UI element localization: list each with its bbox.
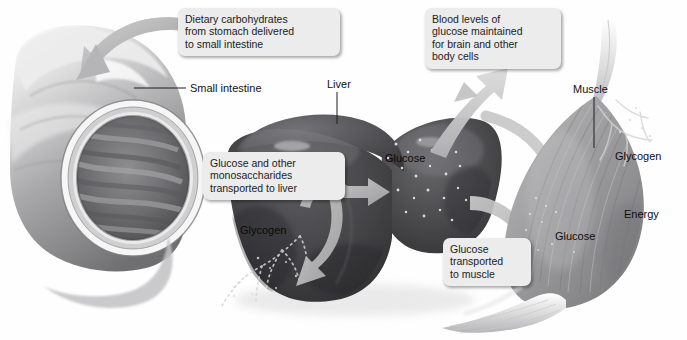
label-liver-glucose: Glucose <box>385 152 425 164</box>
label-small-intestine: Small intestine <box>190 82 262 94</box>
label-muscle-energy: Energy <box>624 208 659 220</box>
label-muscle-glucose: Glucose <box>555 230 595 242</box>
intestine-cut-end <box>61 100 205 256</box>
callout-glucose-to-liver[interactable]: Glucose and other monosaccharides transp… <box>203 152 345 200</box>
callout-dietary-carbohydrates[interactable]: Dietary carbohydrates from stomach deliv… <box>178 8 340 56</box>
callout-glucose-to-muscle[interactable]: Glucose transported to muscle <box>443 238 531 286</box>
figure-canvas: Dietary carbohydrates from stomach deliv… <box>0 0 687 340</box>
callout-blood-glucose[interactable]: Blood levels of glucose maintained for b… <box>425 8 561 69</box>
label-liver: Liver <box>327 78 351 90</box>
label-muscle-glycogen: Glycogen <box>615 150 661 162</box>
liver-highlight-1 <box>274 141 310 151</box>
label-liver-glycogen: Glycogen <box>240 224 286 236</box>
label-muscle: Muscle <box>573 83 608 95</box>
